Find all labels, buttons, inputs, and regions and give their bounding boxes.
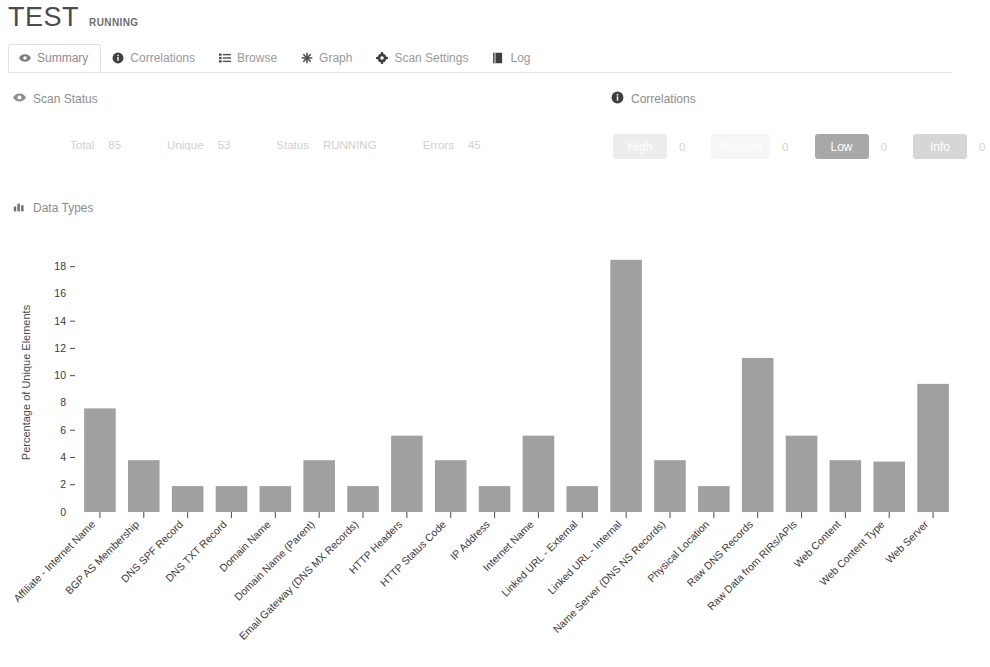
chart-canvas: Percentage of Unique Elements02468101214… xyxy=(0,235,961,667)
bar xyxy=(303,460,335,512)
scan-status-label: Scan Status xyxy=(33,92,98,106)
bar-chart-icon xyxy=(13,200,26,216)
bar xyxy=(566,486,598,512)
list-icon xyxy=(219,52,231,64)
tab-label: Correlations xyxy=(130,51,195,65)
scan-status-values: Total85Unique53StatusRUNNINGErrors45 xyxy=(70,139,527,151)
tab-bar: SummaryCorrelationsBrowseGraphScan Setti… xyxy=(8,44,952,73)
bar xyxy=(260,486,292,512)
status-field-errors: Errors45 xyxy=(423,139,481,151)
tab-summary[interactable]: Summary xyxy=(8,44,101,72)
status-field-value: 53 xyxy=(218,139,231,151)
correlation-item-info: Info0 xyxy=(913,134,990,159)
correlations-label: Correlations xyxy=(631,92,696,106)
y-axis-tick-label: 6 xyxy=(60,424,66,436)
status-badge: RUNNING xyxy=(89,17,138,28)
bar xyxy=(84,408,116,512)
book-icon xyxy=(492,52,504,64)
tab-browse[interactable]: Browse xyxy=(208,44,290,72)
bar xyxy=(917,384,949,512)
y-axis-tick-label: 2 xyxy=(60,478,66,490)
page-header: TEST RUNNING xyxy=(8,2,138,32)
status-field-status: StatusRUNNING xyxy=(276,139,376,151)
tab-label: Browse xyxy=(237,51,277,65)
x-axis-tick-label: Linked URL - Internal xyxy=(545,518,623,596)
bar xyxy=(873,462,905,512)
correlations-heading: Correlations xyxy=(611,91,696,107)
bar xyxy=(216,486,248,512)
x-axis-tick-label: Domain Name (Parent) xyxy=(232,518,317,603)
tab-log[interactable]: Log xyxy=(481,44,543,72)
status-field-value: 85 xyxy=(108,139,121,151)
tab-label: Scan Settings xyxy=(394,51,468,65)
bar xyxy=(435,460,467,512)
status-field-key: Errors xyxy=(423,139,454,151)
bar xyxy=(347,486,379,512)
correlation-item-high: High0 xyxy=(613,134,711,159)
correlation-item-low: Low0 xyxy=(815,134,913,159)
correlation-count-info: 0 xyxy=(979,141,985,153)
y-axis-tick-label: 10 xyxy=(54,369,66,381)
correlation-count-medium: 0 xyxy=(782,141,788,153)
correlation-count-high: 0 xyxy=(679,141,685,153)
bar xyxy=(610,260,642,512)
x-axis-tick-label: IP Address xyxy=(448,518,492,562)
bar xyxy=(742,358,774,512)
info-icon xyxy=(112,52,124,64)
bar xyxy=(128,460,160,512)
tab-label: Graph xyxy=(319,51,352,65)
tab-label: Summary xyxy=(37,51,88,65)
bar xyxy=(654,460,686,512)
status-field-key: Status xyxy=(276,139,309,151)
y-axis-tick-label: 12 xyxy=(54,342,66,354)
x-axis-tick-label: Affiliate - Internet Name xyxy=(11,518,97,604)
tab-graph[interactable]: Graph xyxy=(290,44,365,72)
eye-icon xyxy=(13,91,26,107)
y-axis-tick-label: 4 xyxy=(60,451,66,463)
x-axis-tick-label: Linked URL - External xyxy=(499,518,580,599)
data-types-chart: Percentage of Unique Elements02468101214… xyxy=(0,235,961,667)
y-axis-tick-label: 8 xyxy=(60,396,66,408)
x-axis-tick-label: BGP AS Membership xyxy=(63,518,142,597)
y-axis-tick-label: 14 xyxy=(54,315,66,327)
bar xyxy=(786,436,818,512)
bar xyxy=(523,436,555,512)
status-field-key: Total xyxy=(70,139,94,151)
correlation-badge-medium[interactable]: Medium xyxy=(711,134,770,159)
bar xyxy=(830,460,862,512)
status-field-key: Unique xyxy=(167,139,203,151)
data-types-label: Data Types xyxy=(33,201,93,215)
x-axis-tick-label: Raw Data from RIRs/APIs xyxy=(705,518,799,612)
tab-scan-settings[interactable]: Scan Settings xyxy=(365,44,481,72)
scan-status-heading: Scan Status xyxy=(13,91,98,107)
correlation-badge-info[interactable]: Info xyxy=(913,134,967,159)
status-field-total: Total85 xyxy=(70,139,121,151)
eye-icon xyxy=(19,52,31,64)
y-axis-tick-label: 18 xyxy=(54,260,66,272)
y-axis-title: Percentage of Unique Elements xyxy=(20,304,32,460)
correlation-badge-high[interactable]: High xyxy=(613,134,667,159)
data-types-heading: Data Types xyxy=(13,200,93,216)
x-axis-tick-label: Web Server xyxy=(883,518,931,566)
correlation-badges: High0Medium0Low0Info0 xyxy=(613,134,990,159)
tab-label: Log xyxy=(510,51,530,65)
status-field-unique: Unique53 xyxy=(167,139,230,151)
bar xyxy=(172,486,204,512)
page-title: TEST xyxy=(8,2,79,32)
correlation-badge-low[interactable]: Low xyxy=(815,134,869,159)
asterisk-icon xyxy=(301,52,313,64)
status-field-value: RUNNING xyxy=(323,139,377,151)
info-icon xyxy=(611,91,624,107)
bar xyxy=(391,436,423,512)
status-field-value: 45 xyxy=(468,139,481,151)
correlation-count-low: 0 xyxy=(881,141,887,153)
gear-icon xyxy=(376,52,388,64)
y-axis-tick-label: 0 xyxy=(60,506,66,518)
y-axis-tick-label: 16 xyxy=(54,287,66,299)
bar xyxy=(698,486,730,512)
correlation-item-medium: Medium0 xyxy=(711,134,814,159)
tab-correlations[interactable]: Correlations xyxy=(101,44,208,72)
bar xyxy=(479,486,511,512)
